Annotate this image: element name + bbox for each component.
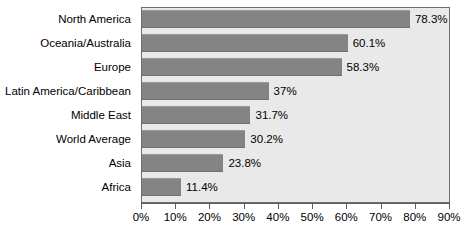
bar-row: 31.7% bbox=[142, 104, 449, 128]
category-label: Latin America/Caribbean bbox=[0, 79, 136, 103]
chart-title bbox=[141, 0, 450, 3]
category-label: World Average bbox=[0, 127, 136, 151]
x-tick bbox=[141, 203, 142, 209]
category-label: North America bbox=[0, 7, 136, 31]
x-tick bbox=[209, 203, 210, 209]
bar bbox=[142, 10, 410, 28]
bar-value-label: 37% bbox=[269, 82, 297, 100]
x-tick bbox=[278, 203, 279, 209]
category-axis: North AmericaOceania/AustraliaEuropeLati… bbox=[0, 7, 136, 203]
x-tick bbox=[312, 203, 313, 209]
bar-value-label: 11.4% bbox=[181, 178, 218, 196]
category-label: Oceania/Australia bbox=[0, 31, 136, 55]
bar bbox=[142, 178, 181, 196]
x-tick bbox=[346, 203, 347, 209]
bar-row: 11.4% bbox=[142, 176, 449, 200]
x-tick bbox=[175, 203, 176, 209]
bar bbox=[142, 58, 342, 76]
bar bbox=[142, 82, 269, 100]
bar-row: 60.1% bbox=[142, 32, 449, 56]
category-label: Asia bbox=[0, 151, 136, 175]
bar-row: 23.8% bbox=[142, 152, 449, 176]
bar-value-label: 58.3% bbox=[342, 58, 380, 76]
bar bbox=[142, 154, 223, 172]
plot-area: 78.3%60.1%58.3%37%31.7%30.2%23.8%11.4% bbox=[141, 7, 450, 203]
x-tick bbox=[415, 203, 416, 209]
bar-value-label: 31.7% bbox=[250, 106, 288, 124]
bar bbox=[142, 106, 250, 124]
bar-value-label: 30.2% bbox=[245, 130, 283, 148]
bar bbox=[142, 34, 348, 52]
bar bbox=[142, 130, 245, 148]
bar-value-label: 60.1% bbox=[348, 34, 386, 52]
x-tick-label: 90% bbox=[427, 211, 465, 223]
bar-row: 78.3% bbox=[142, 8, 449, 32]
category-label: Europe bbox=[0, 55, 136, 79]
category-label: Africa bbox=[0, 175, 136, 199]
bar-value-label: 78.3% bbox=[410, 10, 448, 28]
x-tick bbox=[244, 203, 245, 209]
x-axis: 0%10%20%30%40%50%60%70%80%90% bbox=[141, 203, 450, 238]
bars-layer: 78.3%60.1%58.3%37%31.7%30.2%23.8%11.4% bbox=[142, 8, 449, 202]
category-label: Middle East bbox=[0, 103, 136, 127]
x-tick bbox=[381, 203, 382, 209]
bar-row: 30.2% bbox=[142, 128, 449, 152]
bar-value-label: 23.8% bbox=[223, 154, 261, 172]
bar-row: 37% bbox=[142, 80, 449, 104]
bar-row: 58.3% bbox=[142, 56, 449, 80]
x-axis-line bbox=[141, 203, 450, 204]
x-tick bbox=[449, 203, 450, 209]
